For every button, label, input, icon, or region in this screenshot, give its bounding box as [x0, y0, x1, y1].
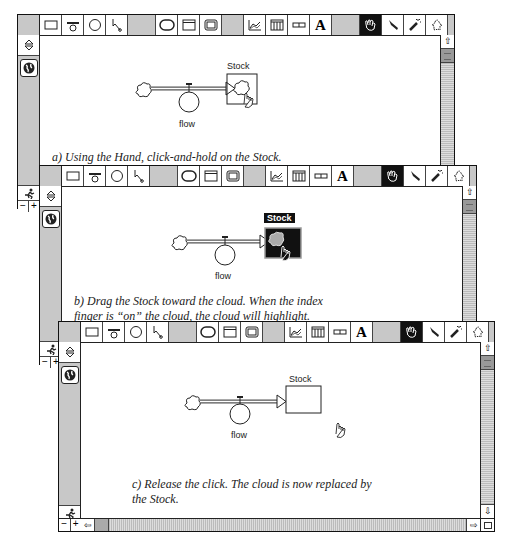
button-tool-button[interactable] — [200, 15, 222, 35]
zoom-in-button[interactable]: + — [71, 519, 82, 531]
flow-tool-button[interactable] — [62, 15, 84, 35]
zoom-out-button[interactable]: − — [40, 357, 51, 368]
text-tool-button[interactable]: A — [310, 15, 332, 35]
text-tool-button[interactable]: A — [332, 166, 354, 186]
zoom-in-button[interactable]: + — [29, 201, 39, 212]
toolbar-spacer — [354, 166, 382, 186]
sink-cloud-icon — [234, 81, 250, 95]
numeric-display-tool-button[interactable] — [288, 15, 310, 35]
zoom-out-button[interactable]: − — [59, 519, 71, 531]
scroll-up-arrow-icon[interactable]: ⇧ — [463, 186, 476, 200]
globe-mode-button[interactable] — [61, 366, 79, 384]
paintbrush-tool-button[interactable] — [382, 15, 404, 35]
toolbar-end — [489, 322, 494, 342]
scroll-thumb[interactable] — [441, 49, 454, 63]
ghost-tool-button[interactable] — [448, 166, 470, 186]
horizontal-scroll-thumb[interactable] — [95, 519, 109, 531]
toolbar-spacer — [128, 15, 156, 35]
run-icon[interactable] — [18, 185, 39, 200]
converter-tool-button[interactable] — [106, 166, 128, 186]
globe-mode-button[interactable] — [20, 59, 38, 77]
layer-updown-button[interactable] — [18, 35, 39, 56]
paintbrush-tool-button[interactable] — [404, 166, 426, 186]
numeric-display-tool-button[interactable] — [329, 322, 351, 342]
window-c: A − + ⇧ ⇩ ⇦ ⇨ — [58, 321, 495, 532]
hand-tool-button[interactable] — [382, 166, 404, 186]
toolbar-spacer — [244, 166, 266, 186]
stock-tool-button[interactable] — [62, 166, 84, 186]
graph-tool-button[interactable] — [244, 15, 266, 35]
scroll-up-arrow-icon[interactable]: ⇧ — [481, 342, 494, 356]
toolbar-spacer — [169, 322, 197, 342]
toolbar-spacer — [263, 322, 285, 342]
toolbar-end — [470, 166, 476, 186]
dynamite-tool-button[interactable] — [426, 166, 448, 186]
toolbar-end — [448, 15, 454, 35]
tool-palette: A — [40, 166, 476, 187]
globe-mode-button[interactable] — [42, 210, 60, 228]
button-tool-button[interactable] — [241, 322, 263, 342]
tool-palette: A — [18, 15, 454, 36]
toolbar-corner — [40, 166, 62, 186]
connector-tool-button[interactable] — [106, 15, 128, 35]
converter-tool-button[interactable] — [125, 322, 147, 342]
zoom-out-button[interactable]: − — [18, 201, 29, 212]
flow-pipe-diagram — [166, 216, 316, 291]
flow-converter-circle — [230, 404, 250, 424]
vertical-scrollbar[interactable]: ⇧ ⇩ — [480, 342, 494, 518]
resize-grow-box[interactable] — [480, 518, 494, 531]
hand-tool-button[interactable] — [360, 15, 382, 35]
flow-converter-circle — [179, 92, 199, 112]
graph-tool-button[interactable] — [266, 166, 288, 186]
scroll-thumb[interactable] — [463, 200, 476, 214]
dynamite-tool-button[interactable] — [404, 15, 426, 35]
button-tool-button[interactable] — [222, 166, 244, 186]
layer-updown-button[interactable] — [59, 342, 80, 363]
source-cloud-icon — [172, 236, 187, 250]
hand-tool-button[interactable] — [401, 322, 423, 342]
flow-converter-circle — [215, 245, 235, 265]
zoom-controls: − + — [59, 518, 82, 531]
toolbar-spacer — [150, 166, 178, 186]
connector-tool-button[interactable] — [128, 166, 150, 186]
scroll-left-arrow-icon[interactable]: ⇦ — [81, 519, 95, 531]
sector-tool-button[interactable] — [178, 15, 200, 35]
flow-tool-button[interactable] — [103, 322, 125, 342]
zoom-controls: − + — [18, 200, 39, 212]
layer-updown-button[interactable] — [40, 186, 61, 207]
stock-label: Stock — [227, 61, 250, 71]
connector-tool-button[interactable] — [147, 322, 169, 342]
graph-tool-button[interactable] — [285, 322, 307, 342]
decision-process-tool-button[interactable] — [178, 166, 200, 186]
stock-tool-button[interactable] — [81, 322, 103, 342]
scroll-up-arrow-icon[interactable]: ⇧ — [441, 35, 454, 49]
flow-tool-button[interactable] — [84, 166, 106, 186]
numeric-display-tool-button[interactable] — [310, 166, 332, 186]
decision-process-tool-button[interactable] — [197, 322, 219, 342]
ghost-tool-button[interactable] — [467, 322, 489, 342]
stock-flow-diagram-b: Stock flow — [166, 216, 316, 291]
sector-tool-button[interactable] — [219, 322, 241, 342]
dynamite-tool-button[interactable] — [445, 322, 467, 342]
flow-pipe-diagram — [130, 57, 280, 147]
converter-tool-button[interactable] — [84, 15, 106, 35]
left-panel: − + — [18, 35, 40, 208]
decision-process-tool-button[interactable] — [156, 15, 178, 35]
tool-palette: A — [59, 322, 494, 343]
text-tool-button[interactable]: A — [351, 322, 373, 342]
scroll-down-arrow-icon[interactable]: ⇩ — [481, 504, 494, 518]
stock-flow-diagram-a: Stock flow — [130, 57, 280, 147]
paintbrush-tool-button[interactable] — [423, 322, 445, 342]
ghost-tool-button[interactable] — [426, 15, 448, 35]
stock-label: Stock — [289, 374, 312, 384]
table-tool-button[interactable] — [307, 322, 329, 342]
toolbar-spacer — [373, 322, 401, 342]
stock-box — [286, 386, 321, 413]
scroll-thumb[interactable] — [481, 356, 494, 370]
sector-tool-button[interactable] — [200, 166, 222, 186]
table-tool-button[interactable] — [266, 15, 288, 35]
horizontal-scrollbar[interactable]: ⇦ ⇨ — [81, 518, 480, 531]
scroll-right-arrow-icon[interactable]: ⇨ — [466, 519, 480, 531]
table-tool-button[interactable] — [288, 166, 310, 186]
stock-tool-button[interactable] — [40, 15, 62, 35]
